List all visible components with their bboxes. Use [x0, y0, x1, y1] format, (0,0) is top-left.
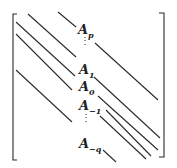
diagonal-top-short [58, 12, 76, 27]
diagonal-after-am1-a [106, 110, 151, 156]
left-bracket [13, 14, 17, 160]
diagonal-after-amq [103, 150, 116, 162]
vdots-lower: ⋮ [81, 115, 85, 120]
label-a-minus-q: A−q [79, 137, 101, 153]
label-a-0: A0 [79, 80, 95, 96]
diagonal-after-am1-b [100, 116, 146, 159]
right-bracket [159, 13, 164, 157]
diagonal-after-a1 [94, 77, 160, 138]
diagonal-3 [16, 34, 72, 90]
diagonal-lower-left [16, 70, 72, 122]
label-a-1: A1 [79, 63, 95, 79]
diagonal-after-ap [95, 43, 158, 100]
vdots-upper: ⋮ [80, 38, 84, 43]
